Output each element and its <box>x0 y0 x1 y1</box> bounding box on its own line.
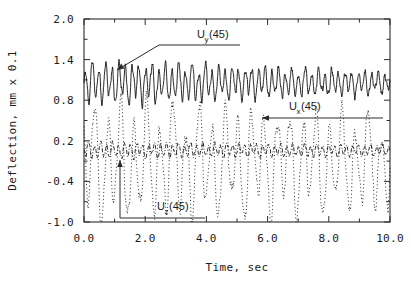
series-trace-ux45 <box>84 91 390 222</box>
series-label-sub-uy: y <box>205 35 209 44</box>
y-tick-label: -1.0 <box>46 216 74 229</box>
x-tick-label: 0.0 <box>74 232 95 245</box>
y-tick-label: 0.8 <box>53 94 74 107</box>
series-label-suffix-ux: (45) <box>301 100 321 112</box>
y-tick-label: 2.0 <box>53 13 74 26</box>
y-axis-title: Deflection, mm x 0.1 <box>6 50 19 190</box>
leader-arrow-ux <box>262 115 269 121</box>
y-tick-label: 1.4 <box>53 54 74 67</box>
series-label-suffix-uy: (45) <box>209 28 229 40</box>
y-tick-label: 0.2 <box>53 135 74 148</box>
leader-line-uy <box>117 45 240 70</box>
series-label-sub-ux: x <box>297 107 301 116</box>
deflection-time-chart: Uy (45)Ux (45)Uz (45) 0.02.04.06.08.010.… <box>0 0 411 283</box>
leader-arrow-uz <box>117 160 123 167</box>
x-tick-label: 6.0 <box>257 232 278 245</box>
x-tick-label: 2.0 <box>135 232 156 245</box>
series-annotation-uz: Uz (45) <box>157 200 189 216</box>
chart-figure: Uy (45)Ux (45)Uz (45) 0.02.04.06.08.010.… <box>0 0 411 283</box>
series-annotation-uy: Uy (45) <box>197 28 229 44</box>
series-trace-uy45 <box>84 59 390 109</box>
series-label-suffix-uz: (45) <box>169 200 189 212</box>
data-traces-group <box>84 59 390 222</box>
x-tick-label: 10.0 <box>376 232 404 245</box>
x-tick-label: 8.0 <box>318 232 339 245</box>
x-axis-title: Time, sec <box>205 261 268 274</box>
y-tick-label: -0.4 <box>46 175 74 188</box>
series-label-sub-uz: z <box>165 207 169 216</box>
series-annotation-ux: Ux (45) <box>289 100 321 116</box>
x-tick-label: 4.0 <box>196 232 217 245</box>
